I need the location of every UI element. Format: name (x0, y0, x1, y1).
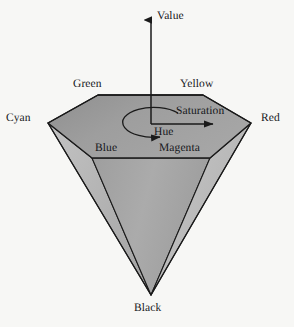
label-cyan: Cyan (6, 113, 31, 125)
label-green: Green (73, 79, 102, 91)
label-blue: Blue (95, 143, 117, 155)
label-black: Black (134, 303, 161, 315)
hexcone-drawing (0, 0, 294, 327)
label-magenta: Magenta (159, 143, 200, 155)
label-yellow: Yellow (180, 79, 213, 91)
label-value: Value (157, 11, 184, 23)
label-hue: Hue (154, 127, 173, 139)
label-saturation: Saturation (176, 106, 224, 118)
label-red: Red (261, 113, 280, 125)
hsv-hexcone-figure: Value Green Yellow Cyan Red Saturation H… (0, 0, 294, 327)
